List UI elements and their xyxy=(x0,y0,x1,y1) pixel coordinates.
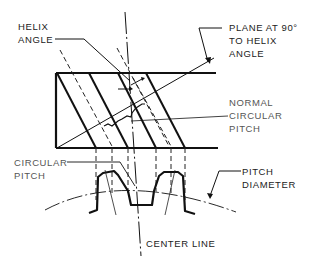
label-line: PITCH xyxy=(229,122,282,135)
circular-pitch-label: CIRCULAR PITCH xyxy=(14,156,67,182)
label-line: CIRCULAR xyxy=(229,109,282,122)
pitch-diameter-leader xyxy=(210,171,241,196)
center-line-label: CENTER LINE xyxy=(146,237,215,250)
pitch-circle xyxy=(45,190,236,212)
plane-leader xyxy=(199,28,222,62)
label-line: PLANE AT 90° xyxy=(229,21,298,34)
helix-angle-label: HELIX ANGLE xyxy=(18,20,53,46)
label-line: PITCH xyxy=(242,165,296,178)
normal-pitch-leader xyxy=(131,116,228,121)
normal-circular-pitch-label: NORMAL CIRCULAR PITCH xyxy=(229,96,282,135)
label-line: DIAMETER xyxy=(242,178,296,191)
pitch-diameter-label: PITCH DIAMETER xyxy=(242,165,296,191)
label-line: TO HELIX xyxy=(229,34,298,47)
normal-plane-line xyxy=(57,58,214,148)
plane-label: PLANE AT 90° TO HELIX ANGLE xyxy=(229,21,298,60)
center-line xyxy=(125,12,141,256)
label-line: NORMAL xyxy=(229,96,282,109)
label-line: ANGLE xyxy=(18,33,53,46)
gear-tooth-profile xyxy=(89,171,195,214)
label-line: CENTER LINE xyxy=(146,237,215,250)
projection-lines xyxy=(96,148,185,200)
label-line: ANGLE xyxy=(229,47,298,60)
label-line: CIRCULAR xyxy=(14,156,67,169)
label-line: PITCH xyxy=(14,169,67,182)
label-line: HELIX xyxy=(18,20,53,33)
hidden-helix-lines xyxy=(60,48,172,148)
